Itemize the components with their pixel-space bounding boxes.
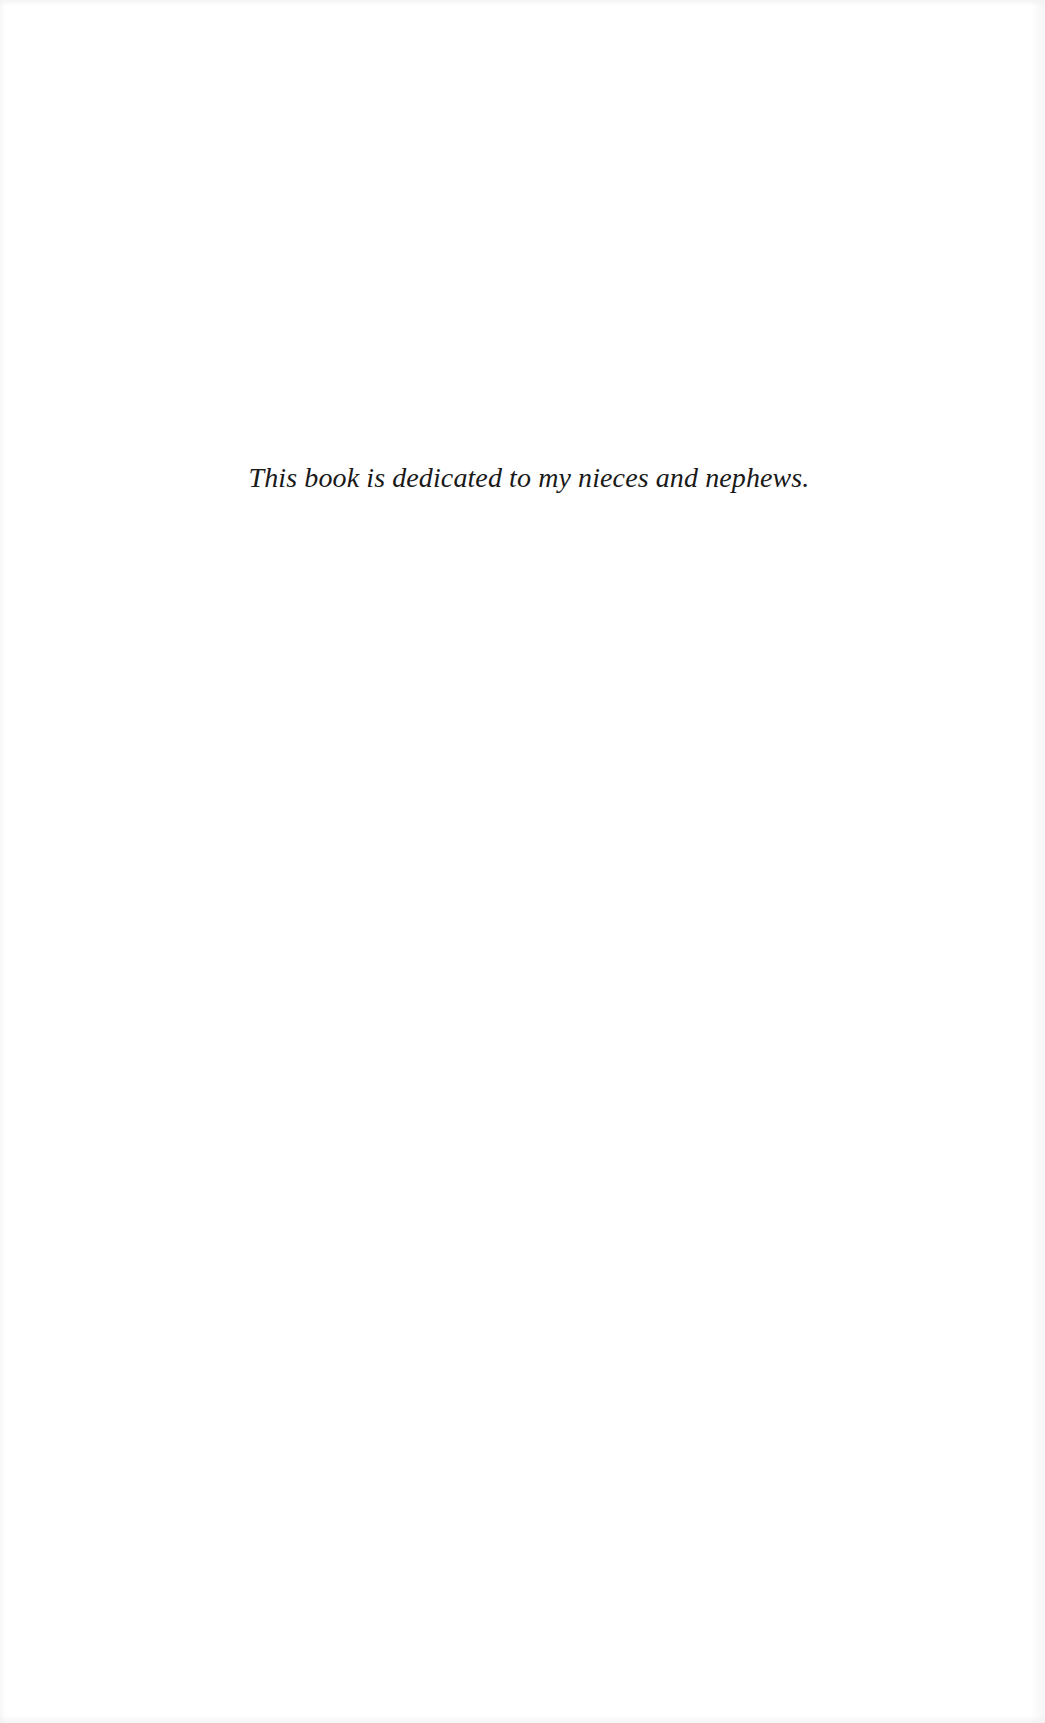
page-edge-left [0, 0, 6, 1723]
page-edge-bottom [0, 1715, 1045, 1723]
dedication-text: This book is dedicated to my nieces and … [0, 460, 1045, 496]
page-edge-top [0, 0, 1045, 6]
page-edge-right [1031, 0, 1045, 1723]
book-page: This book is dedicated to my nieces and … [0, 0, 1045, 1723]
